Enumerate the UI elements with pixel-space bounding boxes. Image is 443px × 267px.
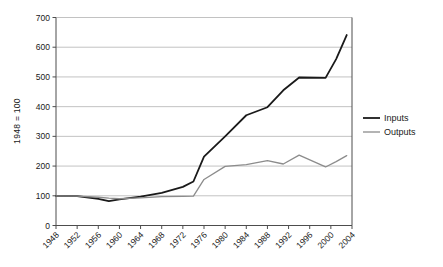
x-tick-label: 2004 (336, 230, 357, 251)
line-chart: 0100200300400500600700 19481952195619601… (0, 0, 443, 267)
gridlines (56, 18, 352, 196)
y-axis-title: 1948 = 100 (12, 98, 22, 144)
x-tick-label: 1992 (273, 230, 294, 251)
chart-page: 0100200300400500600700 19481952195619601… (0, 0, 443, 267)
legend-label-outputs: Outputs (384, 127, 416, 137)
y-tick-label: 700 (36, 13, 50, 23)
data-series (56, 35, 347, 201)
x-tick-label: 1976 (188, 230, 209, 251)
y-tick-label: 0 (45, 221, 50, 231)
x-tick-label: 1988 (252, 230, 273, 251)
series-line-inputs (56, 35, 347, 201)
y-tick-label: 300 (36, 131, 50, 141)
x-tick-label: 2000 (315, 230, 336, 251)
y-tick-label: 600 (36, 42, 50, 52)
y-axis-tick-labels: 0100200300400500600700 (36, 13, 50, 231)
x-tick-label: 1956 (83, 230, 104, 251)
y-tick-label: 500 (36, 72, 50, 82)
legend-label-inputs: Inputs (384, 113, 409, 123)
x-tick-label: 1984 (231, 230, 252, 251)
y-axis-ticks (53, 18, 57, 226)
x-tick-label: 1996 (294, 230, 315, 251)
x-tick-label: 1960 (104, 230, 125, 251)
x-tick-label: 1968 (146, 230, 167, 251)
x-axis-tick-labels: 1948195219561960196419681972197619801984… (40, 230, 357, 251)
x-tick-label: 1980 (210, 230, 231, 251)
chart-legend: InputsOutputs (363, 113, 416, 137)
y-tick-label: 200 (36, 161, 50, 171)
x-tick-label: 1948 (40, 230, 61, 251)
x-axis-ticks (56, 226, 352, 230)
y-tick-label: 100 (36, 191, 50, 201)
x-tick-label: 1972 (167, 230, 188, 251)
y-tick-label: 400 (36, 102, 50, 112)
x-tick-label: 1964 (125, 230, 146, 251)
x-tick-label: 1952 (62, 230, 83, 251)
